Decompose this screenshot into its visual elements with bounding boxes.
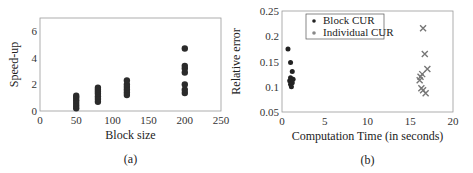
chart-b-svg: 051015200.050.10.150.20.25Computation Ti… [236,0,473,173]
y-tick-label: 2 [32,78,38,90]
data-point [290,69,295,74]
x-axis-label: Computation Time (in seconds) [292,129,444,143]
legend-marker-icon [312,19,316,23]
chart-a-svg: 0501001502002500246Block sizeSpeed-up(a) [0,0,236,173]
x-tick-label: 150 [140,114,157,126]
x-tick-label: 5 [322,115,328,127]
x-tick-label: 20 [448,115,460,127]
legend-entry-label: Block CUR [323,14,375,26]
y-tick-label: 0.05 [260,106,280,118]
y-tick-label: 6 [32,25,38,37]
data-point [288,60,293,65]
y-axis-label: Speed-up [7,42,21,87]
y-tick-label: 0.1 [265,81,279,93]
x-tick-label: 250 [213,114,230,126]
x-tick-label: 15 [405,115,417,127]
y-tick-label: 4 [32,52,38,64]
legend-marker-icon [312,31,316,35]
plot-area-frame [40,18,221,111]
data-point [289,84,294,89]
data-point [182,63,188,69]
x-tick-label: 0 [37,114,43,126]
x-tick-label: 10 [362,115,374,127]
figure-caption: (a) [124,152,137,166]
x-tick-label: 50 [71,114,83,126]
y-tick-label: 0.15 [260,56,280,68]
data-point [285,46,290,51]
data-point [95,85,101,91]
figure-caption: (b) [361,153,375,167]
chart-a-panel: 0501001502002500246Block sizeSpeed-up(a) [0,0,236,173]
y-tick-label: 0.25 [260,5,280,17]
legend-entry-label: Individual CUR [323,26,394,38]
data-point [73,93,79,99]
data-point [124,77,130,83]
x-tick-label: 100 [104,114,121,126]
x-axis-label: Block size [105,128,155,142]
y-tick-label: 0 [32,105,38,117]
data-point [182,81,188,87]
y-tick-label: 0.2 [265,30,279,42]
data-point [182,45,188,51]
x-tick-label: 200 [177,114,194,126]
y-axis-label: Relative error [229,28,243,94]
x-tick-label: 0 [279,115,285,127]
legend: Block CURIndividual CUR [306,14,394,39]
chart-b-panel: 051015200.050.10.150.20.25Computation Ti… [236,0,473,173]
